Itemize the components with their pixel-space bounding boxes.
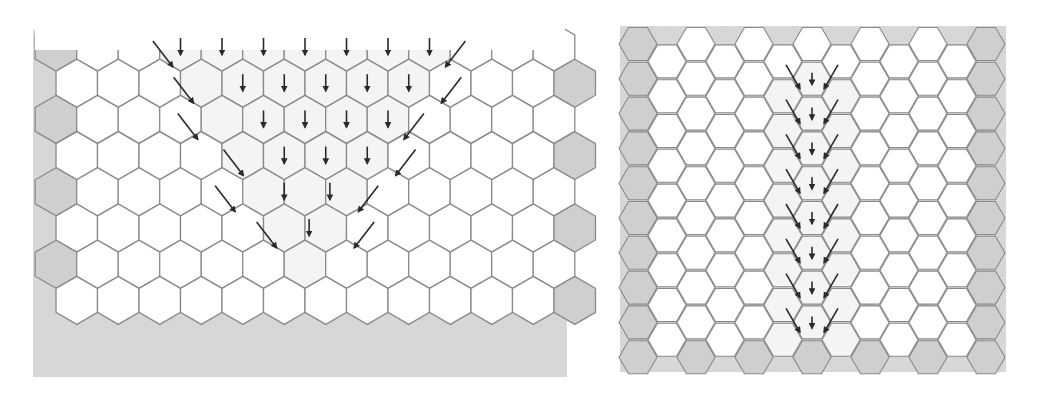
figure-canvas: [0, 0, 1046, 398]
hex-grid-figure: [0, 0, 1046, 398]
hex-cells: [35, 23, 595, 324]
right-panel-channel-grid: [619, 26, 1006, 374]
left-panel-funnel-grid: [33, 20, 596, 377]
